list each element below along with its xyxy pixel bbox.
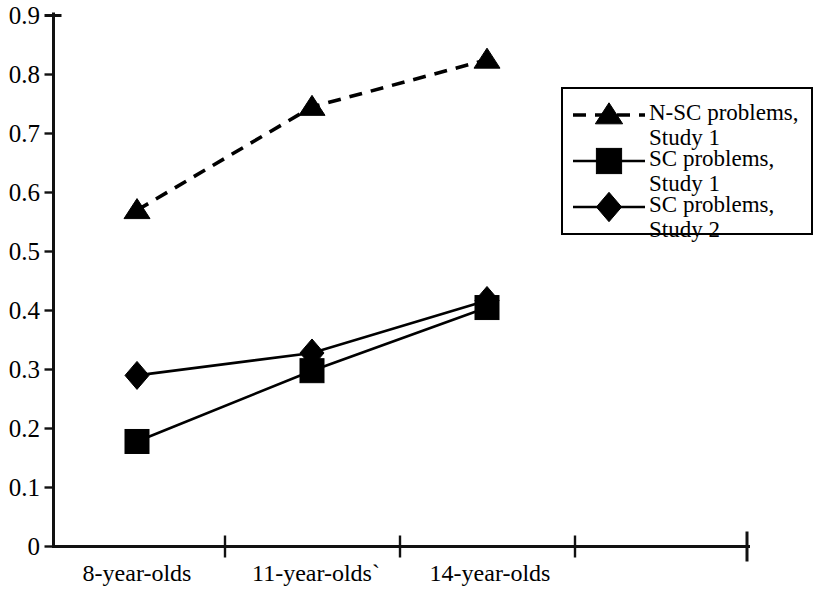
y-axis-tick-label: 0.6 [0, 180, 40, 205]
chart-series-group [124, 48, 500, 453]
y-axis-tick-label: 0.4 [0, 298, 40, 323]
legend-entry-label-line2: Study 2 [649, 217, 774, 242]
y-axis-tick-label: 0.3 [0, 357, 40, 382]
legend-entry-label-line1: N-SC problems, [649, 100, 799, 125]
chart-figure: 0.90.80.70.60.50.40.30.20.10 8-year-olds… [0, 0, 822, 596]
y-axis-tick-label: 0.9 [0, 3, 40, 28]
data-point-triangle-marker [299, 95, 325, 115]
chart-legend: N-SC problems,Study 1SC problems,Study 1… [561, 87, 813, 235]
chart-series [124, 48, 500, 218]
y-axis-tick-label: 0.5 [0, 239, 40, 264]
legend-entry-label: SC problems,Study 1 [649, 146, 774, 196]
y-axis-tick-label: 0.2 [0, 416, 40, 441]
legend-entry-label: N-SC problems,Study 1 [649, 100, 799, 150]
y-axis-tick-label: 0 [0, 534, 40, 559]
legend-entry-label: SC problems,Study 2 [649, 192, 774, 242]
data-point-diamond-marker [596, 192, 621, 221]
y-axis-tick-label: 0.1 [0, 475, 40, 500]
data-point-diamond-marker [125, 361, 149, 389]
series-line [137, 60, 487, 210]
x-axis-tick-label: 14-year-olds [370, 561, 610, 585]
chart-series [125, 296, 499, 454]
y-axis-tick-label: 0.7 [0, 121, 40, 146]
data-point-triangle-marker [474, 48, 500, 68]
data-point-square-marker [596, 148, 621, 173]
y-axis-tick-label: 0.8 [0, 62, 40, 87]
data-point-square-marker [125, 429, 149, 453]
legend-entry-label-line1: SC problems, [649, 192, 774, 217]
legend-entry-label-line1: SC problems, [649, 146, 774, 171]
data-point-triangle-marker [124, 199, 150, 219]
